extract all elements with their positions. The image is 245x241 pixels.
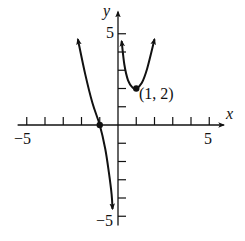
right-branch-curve [122, 39, 155, 89]
point-label: (1, 2) [139, 85, 174, 103]
x-min-label: −5 [14, 130, 31, 147]
x-axis-label: x [225, 105, 233, 122]
curves [78, 39, 155, 209]
y-min-label: −5 [96, 212, 113, 229]
axes [18, 12, 224, 226]
left-branch-curve [78, 39, 113, 209]
marked-point [97, 122, 103, 128]
y-axis-label: y [101, 2, 111, 20]
y-max-label: 5 [106, 24, 114, 41]
function-graph: x y −5 5 5 −5 (1, 2) [0, 0, 245, 241]
x-max-label: 5 [204, 130, 212, 147]
